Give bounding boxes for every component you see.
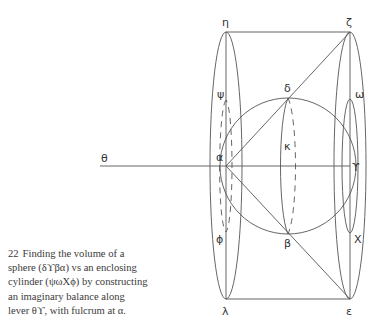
label-phi: ϕ	[216, 233, 223, 246]
diagonal-alpha-epsilon	[226, 166, 350, 299]
figure-number: 22	[8, 248, 19, 259]
figure-caption: 22Finding the volume of a sphere (δϒβα) …	[8, 247, 168, 318]
label-delta: δ	[284, 82, 291, 95]
label-theta: θ	[101, 152, 108, 165]
label-alpha: α	[216, 151, 223, 164]
caption-line-1: 22Finding the volume of a	[8, 247, 168, 261]
label-epsilon: ε	[346, 305, 352, 318]
caption-line-3: cylinder (ψωΧϕ) by constructing	[8, 275, 168, 289]
label-kappa: κ	[284, 140, 291, 153]
label-beta: β	[284, 237, 291, 250]
label-zeta: ζ	[346, 16, 352, 29]
label-gamma: ϒ	[352, 161, 360, 174]
caption-line-2: sphere (δϒβα) vs an enclosing	[8, 261, 168, 275]
caption-line-4: an imaginary balance along	[8, 290, 168, 304]
label-eta: η	[222, 16, 229, 29]
label-psi: ψ	[217, 88, 224, 101]
label-lambda: λ	[222, 305, 229, 318]
label-omega: ω	[355, 88, 364, 101]
caption-line-5: lever θϒ, with fulcrum at α.	[8, 304, 168, 318]
label-chi: Χ	[354, 233, 362, 246]
